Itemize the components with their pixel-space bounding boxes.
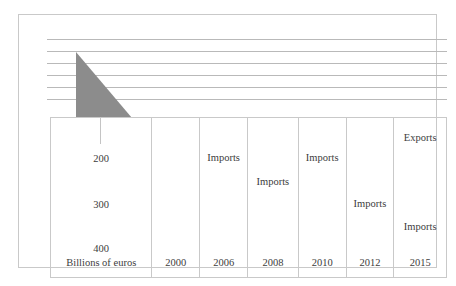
table-column-2012: Imports 2012 <box>347 118 395 277</box>
column-header-2012: 2012 <box>347 257 394 269</box>
axis-unit-label: Billions of euros <box>51 257 151 269</box>
column-header-2006: 2006 <box>200 257 247 269</box>
table-column-2010: Imports 2010 <box>299 118 347 277</box>
table-column-2015: Exports Imports 2015 <box>394 118 446 277</box>
series-triangle-shape <box>76 52 132 118</box>
cell-imports-2015: Imports <box>394 221 446 233</box>
cell-exports-2015: Exports <box>394 132 446 144</box>
axis-tick-300: 300 <box>51 199 151 211</box>
cell-imports-2012: Imports <box>347 198 394 210</box>
column-header-2010: 2010 <box>299 257 346 269</box>
plot-area <box>47 35 447 117</box>
data-table: 200 300 400 Billions of euros 2000 Impor… <box>50 117 447 278</box>
table-column-label: 200 300 400 Billions of euros <box>51 118 152 277</box>
cell-imports-2006: Imports <box>200 152 247 164</box>
table-column-2000: 2000 <box>152 118 200 277</box>
column-header-2015: 2015 <box>394 257 446 269</box>
gridline-1 <box>47 39 447 40</box>
cell-imports-2010: Imports <box>299 152 346 164</box>
column-header-2000: 2000 <box>152 257 199 269</box>
cell-imports-2008: Imports <box>248 176 298 188</box>
chart-screenshot: 200 300 400 Billions of euros 2000 Impor… <box>0 0 456 286</box>
column-header-2008: 2008 <box>248 257 298 269</box>
table-column-2008: Imports 2008 <box>248 118 299 277</box>
table-column-2006: Imports 2006 <box>200 118 248 277</box>
chart-card-frame: 200 300 400 Billions of euros 2000 Impor… <box>18 14 437 268</box>
axis-tick-400: 400 <box>51 243 151 255</box>
axis-tick-200: 200 <box>51 153 151 165</box>
